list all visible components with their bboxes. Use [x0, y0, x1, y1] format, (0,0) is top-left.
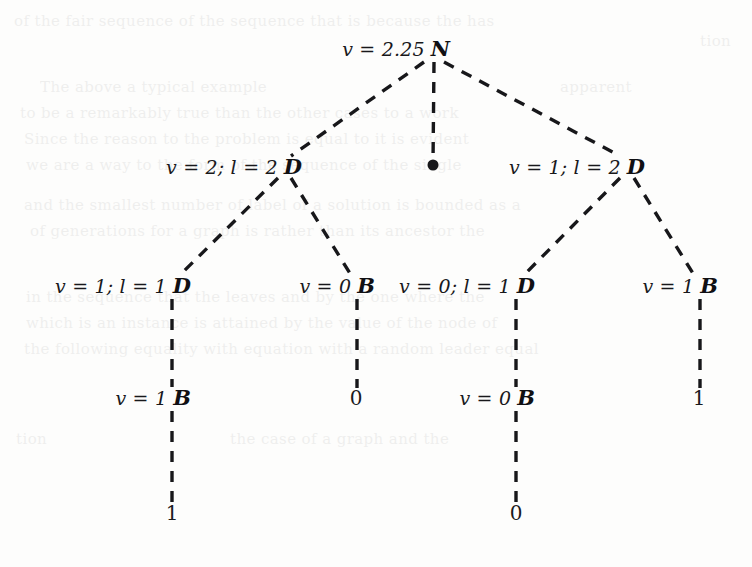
tree-node[interactable]: v = 1B: [115, 385, 191, 410]
node-value-label: v = 1; l = 1: [55, 275, 167, 297]
tree-node[interactable]: v = 0B: [299, 273, 375, 298]
node-value-label: v = 0: [459, 387, 511, 409]
node-type-letter: D: [173, 273, 191, 298]
node-value-label: v = 0; l = 1: [399, 275, 511, 297]
node-type-letter: D: [284, 154, 302, 179]
node-value-label: v = 1; l = 2: [509, 156, 621, 178]
node-type-letter: B: [357, 273, 375, 298]
node-type-letter: B: [173, 385, 191, 410]
tree-figure: of the fair sequence of the sequence tha…: [0, 0, 752, 567]
node-value-label: v = 2.25: [342, 38, 425, 60]
leaf-value: 0: [350, 386, 363, 410]
tree-node[interactable]: v = 2.25N: [342, 36, 450, 61]
leaf-value: 1: [166, 501, 179, 525]
node-value-label: v = 1: [642, 275, 694, 297]
node-value-label: v = 1: [115, 387, 167, 409]
tree-node[interactable]: v = 0B: [459, 385, 535, 410]
node-type-letter: B: [700, 273, 718, 298]
node-value-label: v = 2; l = 2: [166, 156, 278, 178]
leaf-value: 1: [693, 386, 706, 410]
tree-node[interactable]: v = 1B: [642, 273, 718, 298]
node-value-label: v = 0: [299, 275, 351, 297]
tree-node[interactable]: v = 1; l = 1D: [55, 273, 191, 298]
tree-nodes-layer: v = 2.25Nv = 2; l = 2Dv = 1; l = 2Dv = 1…: [0, 0, 752, 567]
tree-node[interactable]: v = 1; l = 2D: [509, 154, 645, 179]
tree-node[interactable]: v = 0; l = 1D: [399, 273, 535, 298]
node-type-letter: D: [517, 273, 535, 298]
node-type-letter: D: [627, 154, 645, 179]
tree-node[interactable]: v = 2; l = 2D: [166, 154, 302, 179]
node-type-letter: B: [517, 385, 535, 410]
node-type-letter: N: [431, 36, 450, 61]
leaf-value: 0: [510, 501, 523, 525]
